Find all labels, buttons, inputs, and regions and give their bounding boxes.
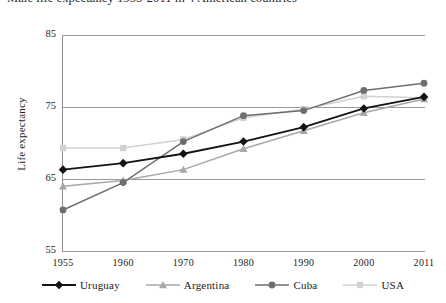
data-point bbox=[60, 145, 66, 151]
legend-item-cuba[interactable]: Cuba bbox=[255, 279, 317, 291]
data-point bbox=[120, 145, 126, 151]
data-point bbox=[300, 107, 307, 114]
series-line bbox=[63, 97, 424, 170]
legend-item-uruguay[interactable]: Uruguay bbox=[42, 279, 120, 291]
plot-area: 55657585 1955196019701980199020002011 bbox=[62, 35, 425, 251]
data-point bbox=[361, 93, 367, 99]
legend-label: USA bbox=[381, 279, 404, 291]
data-point bbox=[120, 179, 127, 186]
legend-marker-triangle-icon bbox=[146, 279, 180, 291]
chart-figure: Male life expectancy 1955-2011 in 4 Amer… bbox=[0, 0, 446, 303]
y-tick-label: 65 bbox=[18, 172, 56, 183]
data-point bbox=[60, 207, 67, 214]
data-point bbox=[179, 150, 188, 159]
data-series-layer bbox=[62, 35, 425, 251]
data-point bbox=[119, 159, 128, 168]
y-tick-label: 85 bbox=[18, 28, 56, 39]
legend-label: Argentina bbox=[184, 279, 230, 291]
x-tick-label: 2011 bbox=[414, 257, 435, 268]
x-tick-label: 2000 bbox=[353, 257, 374, 268]
data-point bbox=[239, 137, 248, 146]
x-tick-label: 1960 bbox=[113, 257, 134, 268]
chart-legend: UruguayArgentinaCubaUSA bbox=[0, 275, 446, 295]
data-point bbox=[180, 138, 187, 145]
data-point bbox=[421, 80, 428, 87]
gridline bbox=[62, 251, 425, 252]
y-tick-label: 75 bbox=[18, 100, 56, 111]
data-point bbox=[240, 112, 247, 119]
chart-title: Male life expectancy 1955-2011 in 4 Amer… bbox=[7, 0, 427, 6]
legend-item-usa[interactable]: USA bbox=[343, 279, 404, 291]
x-tick-label: 1980 bbox=[233, 257, 254, 268]
legend-item-argentina[interactable]: Argentina bbox=[146, 279, 230, 291]
x-tick-label: 1990 bbox=[293, 257, 314, 268]
legend-marker-diamond-icon bbox=[42, 279, 76, 291]
series-uruguay bbox=[59, 93, 429, 174]
x-tick-label: 1970 bbox=[173, 257, 194, 268]
y-tick-label: 55 bbox=[18, 244, 56, 255]
x-tick-label: 1955 bbox=[52, 257, 73, 268]
legend-marker-square-icon bbox=[343, 279, 377, 291]
legend-marker-circle-icon bbox=[255, 279, 289, 291]
legend-label: Cuba bbox=[293, 279, 317, 291]
data-point bbox=[59, 165, 68, 174]
data-point bbox=[360, 87, 367, 94]
legend-label: Uruguay bbox=[80, 279, 120, 291]
